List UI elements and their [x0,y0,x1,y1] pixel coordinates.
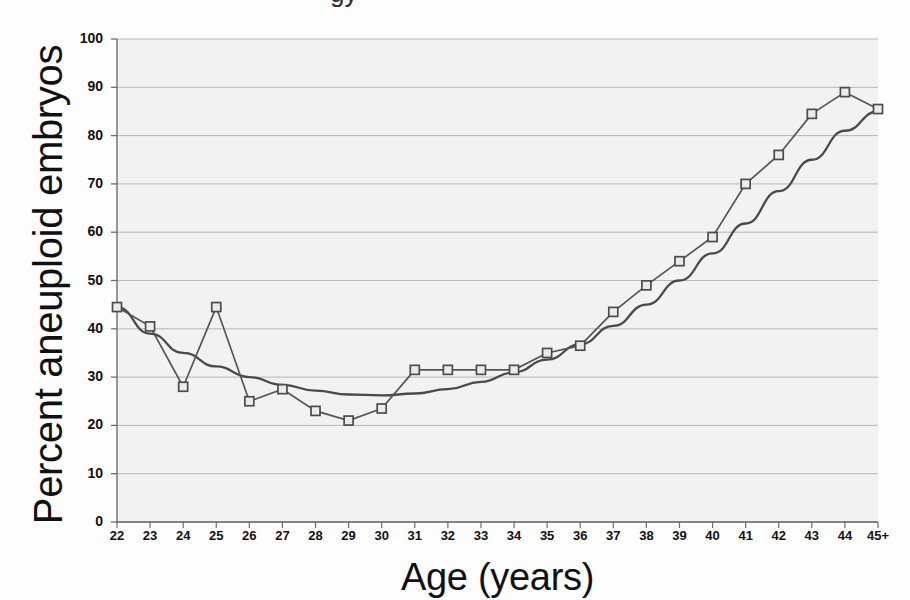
data-point-marker [576,341,585,350]
data-point-marker [741,179,750,188]
data-point-marker [377,404,386,413]
data-point-marker [510,365,519,374]
data-point-marker [344,416,353,425]
data-point-marker [476,365,485,374]
chart-figure: gy Percent aneuploid embryos Age (years)… [0,0,910,600]
data-point-marker [443,365,452,374]
data-point-marker [212,303,221,312]
data-point-marker [146,322,155,331]
data-point-marker [642,281,651,290]
data-point-marker [675,257,684,266]
data-point-marker [807,109,816,118]
data-point-marker [179,382,188,391]
plot-area [0,0,910,600]
data-point-marker [708,233,717,242]
data-point-marker [311,406,320,415]
data-point-marker [840,88,849,97]
data-point-marker [543,348,552,357]
data-point-marker [113,303,122,312]
data-point-marker [410,365,419,374]
data-point-marker [609,307,618,316]
data-point-marker [774,150,783,159]
data-point-marker [278,385,287,394]
data-point-marker [874,105,883,114]
data-point-marker [245,397,254,406]
